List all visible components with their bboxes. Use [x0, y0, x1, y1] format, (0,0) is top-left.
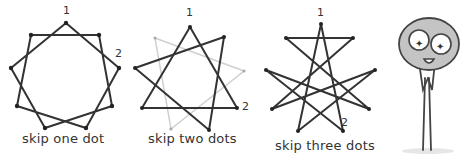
caption-skip-one-dot: skip one dot — [22, 131, 104, 146]
vertex-label-2: 2 — [115, 47, 122, 60]
caption-skip-two-dots: skip two dots — [148, 131, 237, 146]
vertex-label-1: 1 — [63, 4, 70, 17]
panel-skip-two-dots: 1 2 skip two dots — [130, 0, 255, 161]
vertex-label-1: 1 — [317, 6, 324, 19]
vertex-label-1: 1 — [186, 6, 193, 19]
svg-text:✦: ✦ — [436, 41, 444, 52]
panel-skip-three-dots: 1 2 skip three dots — [255, 0, 385, 161]
panel-skip-one-dot: 1 2 skip one dot — [0, 0, 130, 161]
stick-figure: ✦ ✦ — [385, 0, 473, 161]
vertex-label-2: 2 — [341, 116, 348, 129]
caption-skip-three-dots: skip three dots — [275, 138, 375, 153]
vertex-label-2: 2 — [242, 100, 249, 113]
svg-text:✦: ✦ — [415, 38, 423, 49]
star-9-4-diagram — [255, 0, 385, 161]
stick-figure-illustration: ✦ ✦ — [385, 0, 473, 161]
